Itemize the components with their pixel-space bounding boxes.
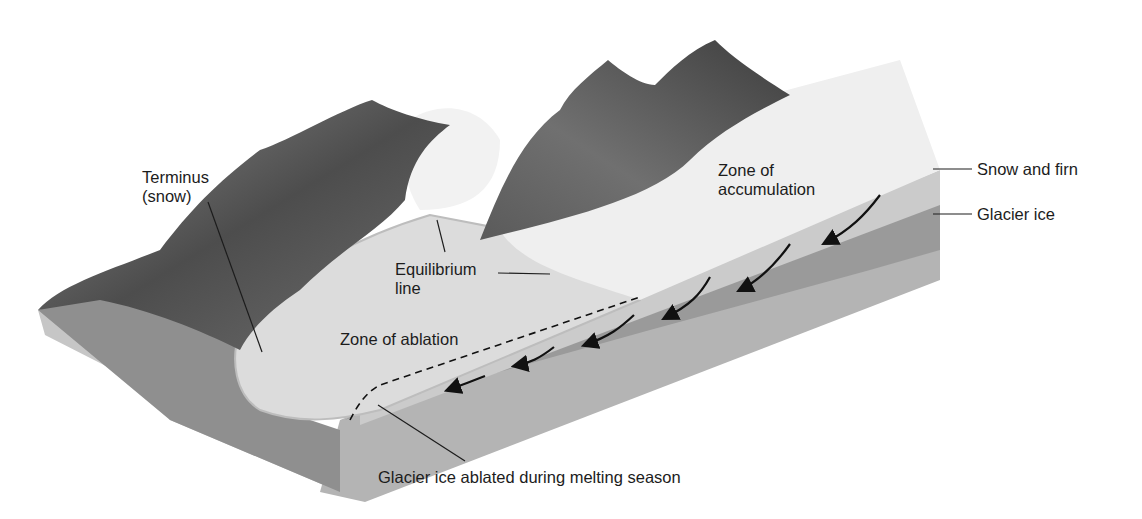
- ablated-ice-label: Glacier ice ablated during melting seaso…: [378, 468, 681, 487]
- equilibrium-line-label: Equilibrium line: [395, 260, 477, 298]
- terminus-label: Terminus (snow): [142, 168, 209, 206]
- zone-of-ablation-label: Zone of ablation: [340, 330, 458, 349]
- glacier-diagram: Terminus (snow) Equilibrium line Zone of…: [0, 0, 1142, 519]
- glacier-block-illustration: [0, 0, 1142, 519]
- snow-and-firn-label: Snow and firn: [977, 160, 1078, 179]
- zone-of-accumulation-label: Zone of accumulation: [718, 161, 815, 199]
- glacier-ice-label: Glacier ice: [977, 205, 1055, 224]
